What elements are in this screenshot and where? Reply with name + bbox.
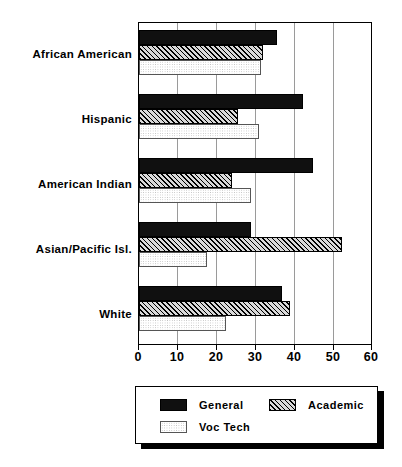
xtick-label-50: 50 [326, 350, 340, 364]
category-label-hispanic: Hispanic [0, 113, 132, 125]
bar-asian-pacific-isl-voc-tech [139, 252, 207, 267]
category-label-asian-pacific-isl: Asian/Pacific Isl. [0, 243, 132, 255]
legend-label-voctech: Voc Tech [199, 421, 250, 433]
bars-layer [139, 23, 371, 344]
legend-swatch-academic-icon [269, 399, 296, 411]
bar-chart: African American Hispanic American India… [0, 0, 402, 467]
bar-asian-pacific-isl-academic [139, 237, 342, 252]
xtick-label-20: 20 [209, 350, 223, 364]
bar-hispanic-academic [139, 109, 238, 124]
bar-hispanic-general [139, 94, 303, 109]
bar-white-general [139, 286, 282, 301]
xtick-label-60: 60 [364, 350, 378, 364]
legend-label-academic: Academic [308, 399, 364, 411]
bar-african-american-voc-tech [139, 60, 261, 75]
xtick-label-30: 30 [248, 350, 262, 364]
bar-american-indian-voc-tech [139, 188, 251, 203]
bar-white-voc-tech [139, 316, 226, 331]
category-axis-labels: African American Hispanic American India… [0, 22, 132, 345]
bar-american-indian-academic [139, 173, 232, 188]
legend-label-general: General [199, 399, 243, 411]
category-label-white: White [0, 308, 132, 320]
xtick-label-10: 10 [170, 350, 184, 364]
bar-asian-pacific-isl-general [139, 222, 251, 237]
bar-white-academic [139, 301, 290, 316]
legend: General Academic Voc Tech [135, 386, 378, 444]
legend-item-academic: Academic [269, 399, 364, 411]
category-label-african-american: African American [0, 48, 132, 60]
xtick-label-0: 0 [134, 350, 141, 364]
bar-african-american-general [139, 30, 277, 45]
bar-hispanic-voc-tech [139, 124, 259, 139]
category-label-american-indian: American Indian [0, 178, 132, 190]
legend-swatch-voctech-icon [160, 421, 187, 433]
bar-american-indian-general [139, 158, 313, 173]
legend-swatch-general-icon [160, 399, 187, 411]
xtick-label-40: 40 [287, 350, 301, 364]
bar-african-american-academic [139, 45, 263, 60]
legend-item-voctech: Voc Tech [160, 421, 250, 433]
legend-item-general: General [160, 399, 243, 411]
